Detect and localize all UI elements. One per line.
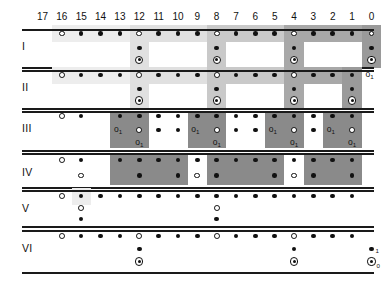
row-VI-tail-c4-filled bbox=[292, 247, 297, 252]
row-V-dot-filled-c3 bbox=[311, 194, 316, 199]
row-label-III: III bbox=[22, 122, 32, 134]
row-label-V: V bbox=[22, 202, 29, 214]
row-IV-low-filled-c3 bbox=[311, 173, 316, 178]
row-V-dot-filled-c7 bbox=[234, 194, 239, 199]
row-II-dot-filled-c11 bbox=[156, 73, 161, 78]
row-IV-dot-filled-c12 bbox=[137, 158, 142, 163]
column-number-11: 11 bbox=[149, 11, 169, 23]
row-III-dot-filled-c7 bbox=[234, 114, 239, 119]
row-IV-dot-filled-c6 bbox=[253, 158, 258, 163]
row-III-mid-filled-c10 bbox=[176, 128, 181, 133]
row-V-dot-filled-c1 bbox=[350, 194, 355, 199]
row-II-dot-open-c12 bbox=[136, 72, 142, 78]
row-label-IV: IV bbox=[22, 166, 33, 178]
row-I-dot-filled-c14 bbox=[98, 31, 103, 36]
row-VI-dot-filled-c6 bbox=[253, 234, 258, 239]
row-VI-dot-filled-c15 bbox=[79, 234, 84, 239]
row-VI-rule-top bbox=[22, 230, 374, 232]
column-number-4: 4 bbox=[284, 11, 304, 23]
row-V-dot-filled-c12 bbox=[137, 194, 142, 199]
row-I-dot-filled-c9 bbox=[195, 31, 200, 36]
row-III-rule-top bbox=[22, 111, 374, 113]
row-III-mid-filled-c6 bbox=[253, 128, 258, 133]
column-number-1: 1 bbox=[342, 11, 362, 23]
row-VI-dot-filled-c7 bbox=[234, 234, 239, 239]
row-label-I: I bbox=[22, 40, 25, 52]
row-V-dot-open-c16 bbox=[59, 193, 65, 199]
row-III-open-c1 bbox=[349, 127, 355, 133]
row-I-dot-filled-c2 bbox=[330, 31, 335, 36]
row-V-tail-c8-open bbox=[214, 205, 220, 211]
column-number-16: 16 bbox=[52, 11, 72, 23]
row-I-tail-c0-bullseye bbox=[367, 56, 375, 64]
row-III-dot-open-c16 bbox=[59, 113, 65, 119]
row-IV-dot-filled-c11 bbox=[156, 158, 161, 163]
row-IV-rule-top bbox=[22, 153, 374, 155]
row-III-mid-filled-c7 bbox=[234, 128, 239, 133]
row-III-anno-o1-left-2: o1 bbox=[269, 125, 277, 134]
row-IV-dot-filled-c3 bbox=[311, 158, 316, 163]
row-I-dot-open-c16 bbox=[59, 31, 65, 37]
row-V-rule-bottom bbox=[22, 226, 374, 228]
row-II-tail-c1-bullseye bbox=[348, 96, 356, 104]
row-III-anno-o1-left-3: o1 bbox=[327, 125, 335, 134]
row-VI-dot-filled-c5 bbox=[272, 234, 277, 239]
row-V-dot-filled-c14 bbox=[98, 194, 103, 199]
row-III-anno-o1-below-1: o1 bbox=[213, 138, 221, 147]
column-number-9: 9 bbox=[187, 11, 207, 23]
row-I-dot-filled-c11 bbox=[156, 31, 161, 36]
row-II-dot-open-c8 bbox=[214, 72, 220, 78]
row-VI-dot-filled-c3 bbox=[311, 234, 316, 239]
row-V-tail-c8-filled bbox=[214, 217, 219, 222]
row-VI-dot-filled-c14 bbox=[98, 234, 103, 239]
row-V-dot-filled-c2 bbox=[330, 194, 335, 199]
row-V-dot-filled-c13 bbox=[118, 194, 123, 199]
column-number-2: 2 bbox=[323, 11, 343, 23]
column-number-3: 3 bbox=[303, 11, 323, 23]
row-III-dot-filled-c3 bbox=[311, 114, 316, 119]
row-I-dot-filled-c10 bbox=[176, 31, 181, 36]
column-number-12: 12 bbox=[129, 11, 149, 23]
row-VI-dot-open-c4 bbox=[291, 233, 297, 239]
row-III-dot-filled-c9 bbox=[195, 114, 200, 119]
row-I-dot-filled-c13 bbox=[118, 31, 123, 36]
row-II-edge-note: o1 bbox=[365, 70, 373, 79]
row-VI-edge-sub-1: 0 bbox=[376, 259, 379, 268]
row-I-dot-filled-c3 bbox=[311, 31, 316, 36]
row-VI-dot-filled-c1 bbox=[350, 234, 355, 239]
row-V-dot-filled-c11 bbox=[156, 194, 161, 199]
row-I-dot-filled-c7 bbox=[234, 31, 239, 36]
row-II-dot-open-c4 bbox=[291, 72, 297, 78]
row-VI-dot-filled-c9 bbox=[195, 234, 200, 239]
row-III-open-c4 bbox=[291, 127, 297, 133]
row-V-tail-c15-open bbox=[78, 205, 84, 211]
row-VI-dot-filled-c10 bbox=[176, 234, 181, 239]
row-VI-dot-filled-c13 bbox=[118, 234, 123, 239]
row-IV-low-open-c15 bbox=[78, 173, 84, 179]
row-III-dot-filled-c12 bbox=[137, 114, 142, 119]
row-IV-low-filled-c12 bbox=[137, 173, 142, 178]
column-number-13: 13 bbox=[110, 11, 130, 23]
row-III-anno-o1-below-3: o1 bbox=[348, 138, 356, 147]
row-III-anno-o1-left-0: o1 bbox=[114, 125, 122, 134]
column-number-7: 7 bbox=[226, 11, 246, 23]
row-label-VI: VI bbox=[22, 242, 33, 254]
row-label-II: II bbox=[22, 81, 28, 93]
row-I-tail-c12-filled bbox=[137, 46, 142, 51]
row-V-dot-filled-c5 bbox=[272, 194, 277, 199]
row-I-dot-open-c8 bbox=[214, 31, 220, 37]
row-III-anno-o1-below-2: o1 bbox=[290, 138, 298, 147]
row-III-mid-filled-c3 bbox=[311, 128, 316, 133]
row-II-tail-c12-filled bbox=[137, 87, 142, 92]
row-IV-low-filled-c8 bbox=[214, 173, 219, 178]
row-I-dot-filled-c5 bbox=[272, 31, 277, 36]
row-I-dot-filled-c6 bbox=[253, 31, 258, 36]
row-VI-dot-filled-c11 bbox=[156, 234, 161, 239]
row-IV-low-filled-c10 bbox=[176, 173, 181, 178]
diagram-canvas: 17161514131211109876543210IIIo1IIIo1o1o1… bbox=[0, 0, 392, 285]
column-number-14: 14 bbox=[91, 11, 111, 23]
row-III-dot-filled-c15 bbox=[79, 114, 84, 119]
row-V-tail-c15-filled bbox=[79, 217, 84, 222]
row-III-dot-filled-c6 bbox=[253, 114, 258, 119]
row-III-mid-filled-c11 bbox=[156, 128, 161, 133]
